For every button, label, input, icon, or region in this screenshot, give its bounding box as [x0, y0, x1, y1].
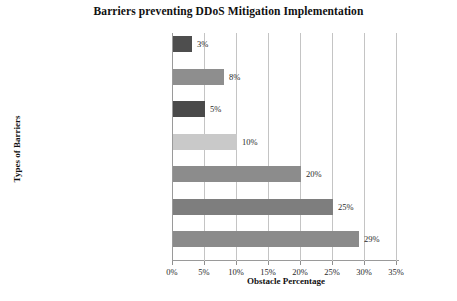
gridline	[396, 33, 397, 261]
bar	[173, 101, 205, 117]
x-tick-mark	[396, 261, 397, 265]
gridline	[300, 33, 301, 261]
gridline	[332, 33, 333, 261]
bar-value-label: 10%	[242, 137, 258, 147]
bar	[173, 199, 333, 215]
plot-area: 0%5%10%15%20%25%30%35% 3%8%5%10%20%25%29…	[172, 33, 399, 261]
x-tick-mark	[236, 261, 237, 265]
chart-title: Barriers preventing DDoS Mitigation Impl…	[0, 5, 457, 17]
bar-value-label: 29%	[364, 234, 380, 244]
bar	[173, 36, 192, 52]
gridline	[364, 33, 365, 261]
bar-value-label: 8%	[229, 72, 240, 82]
x-tick-mark	[332, 261, 333, 265]
bar	[173, 166, 301, 182]
bar	[173, 231, 359, 247]
bar-value-label: 25%	[338, 202, 354, 212]
bar-value-label: 3%	[197, 39, 208, 49]
x-tick-mark	[364, 261, 365, 265]
x-axis-title: Obstacle Percentage	[172, 276, 400, 286]
x-tick-mark	[172, 261, 173, 265]
gridline	[268, 33, 269, 261]
bar	[173, 69, 224, 85]
bar	[173, 134, 237, 150]
chart-container: Barriers preventing DDoS Mitigation Impl…	[0, 0, 457, 301]
bar-value-label: 20%	[306, 169, 322, 179]
y-axis-title: Types of Barriers	[12, 94, 22, 204]
x-tick-mark	[300, 261, 301, 265]
x-tick-mark	[204, 261, 205, 265]
bar-value-label: 5%	[210, 104, 221, 114]
x-tick-mark	[268, 261, 269, 265]
x-tick-label: 35%	[376, 267, 416, 277]
